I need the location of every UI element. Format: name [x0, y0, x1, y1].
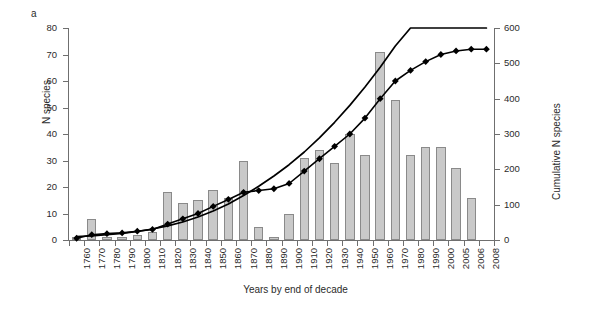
- x-tick-label: 1800: [141, 248, 152, 269]
- y-tick-label-right: 100: [504, 199, 534, 210]
- bar: [102, 237, 111, 240]
- plot-area: N species: [69, 28, 494, 240]
- x-tick: [115, 241, 116, 246]
- x-tick-label: 1930: [339, 248, 350, 269]
- x-tick-label: 2000: [445, 248, 456, 269]
- bar: [467, 198, 476, 240]
- y-tick-right: [495, 28, 500, 29]
- x-tick: [236, 241, 237, 246]
- x-tick-label: 1760: [81, 248, 92, 269]
- bar: [87, 219, 96, 240]
- x-tick-label: 2005: [460, 248, 471, 269]
- y-tick-right: [495, 63, 500, 64]
- x-tick-label: 1830: [187, 248, 198, 269]
- y-tick-label-right: 600: [504, 22, 534, 33]
- bar: [178, 203, 187, 240]
- x-tick-label: 1860: [232, 248, 243, 269]
- x-tick: [251, 241, 252, 246]
- y-tick-label-left: 20: [31, 181, 57, 192]
- bar: [391, 100, 400, 240]
- bar: [148, 232, 157, 240]
- bar: [254, 227, 263, 240]
- bar: [284, 214, 293, 241]
- x-tick: [145, 241, 146, 246]
- bar: [345, 134, 354, 240]
- y-tick-left: [63, 134, 68, 135]
- x-tick: [130, 241, 131, 246]
- bar: [360, 155, 369, 240]
- x-tick-label: 1820: [172, 248, 183, 269]
- x-tick-label: 1980: [415, 248, 426, 269]
- x-tick-label: 2006: [475, 248, 486, 269]
- y-tick-right: [495, 99, 500, 100]
- x-tick-label: 1780: [111, 248, 122, 269]
- chart-figure: a 01020304050607080 0100200300400500600 …: [0, 0, 591, 309]
- y-tick-label-left: 80: [31, 22, 57, 33]
- bar: [72, 237, 81, 240]
- x-tick: [479, 241, 480, 246]
- x-tick: [494, 241, 495, 246]
- bar: [224, 198, 233, 240]
- bar: [117, 237, 126, 240]
- x-tick-label: 2008: [490, 248, 501, 269]
- x-tick: [403, 241, 404, 246]
- y-tick-right: [495, 205, 500, 206]
- y-tick-label-right: 400: [504, 93, 534, 104]
- bar: [239, 161, 248, 241]
- x-tick-label: 1810: [156, 248, 167, 269]
- y-tick-right: [495, 240, 500, 241]
- x-axis-title: Years by end of decade: [0, 284, 591, 295]
- bar: [330, 163, 339, 240]
- x-tick: [282, 241, 283, 246]
- y-tick-label-right: 200: [504, 163, 534, 174]
- x-tick-label: 1960: [384, 248, 395, 269]
- x-tick: [388, 241, 389, 246]
- y-tick-left: [63, 108, 68, 109]
- x-tick-label: 1970: [399, 248, 410, 269]
- bar: [406, 155, 415, 240]
- bar: [421, 147, 430, 240]
- x-tick: [448, 241, 449, 246]
- y-tick-label-left: 30: [31, 155, 57, 166]
- x-tick-label: 1950: [369, 248, 380, 269]
- bar: [269, 237, 278, 240]
- x-tick-label: 1840: [202, 248, 213, 269]
- x-tick: [221, 241, 222, 246]
- bar: [133, 235, 142, 240]
- x-tick-label: 1900: [293, 248, 304, 269]
- x-tick-label: 1890: [278, 248, 289, 269]
- bar: [451, 168, 460, 240]
- bar: [315, 150, 324, 240]
- y-tick-label-left: 10: [31, 208, 57, 219]
- bar: [208, 190, 217, 240]
- x-tick: [190, 241, 191, 246]
- bar: [375, 52, 384, 240]
- x-tick: [327, 241, 328, 246]
- x-tick: [373, 241, 374, 246]
- y-tick-label-right: 0: [504, 234, 534, 245]
- x-tick: [464, 241, 465, 246]
- x-tick-label: 1910: [308, 248, 319, 269]
- x-tick: [206, 241, 207, 246]
- y-tick-left: [63, 55, 68, 56]
- y-tick-label-left: 70: [31, 49, 57, 60]
- y-tick-left: [63, 28, 68, 29]
- x-tick: [160, 241, 161, 246]
- x-tick: [312, 241, 313, 246]
- y-tick-label-left: 0: [31, 234, 57, 245]
- x-tick: [266, 241, 267, 246]
- x-tick-label: 1920: [323, 248, 334, 269]
- x-tick-label: 1770: [96, 248, 107, 269]
- x-tick: [175, 241, 176, 246]
- y-axis-right-title: Cumulative N species: [551, 103, 562, 200]
- x-tick: [297, 241, 298, 246]
- y-tick-right: [495, 134, 500, 135]
- x-tick: [99, 241, 100, 246]
- y-tick-left: [63, 161, 68, 162]
- x-tick-label: 1790: [126, 248, 137, 269]
- x-tick: [357, 241, 358, 246]
- y-axis-left-title: N species: [41, 80, 52, 124]
- y-tick-label-left: 40: [31, 128, 57, 139]
- y-tick-left: [63, 240, 68, 241]
- bar: [436, 147, 445, 240]
